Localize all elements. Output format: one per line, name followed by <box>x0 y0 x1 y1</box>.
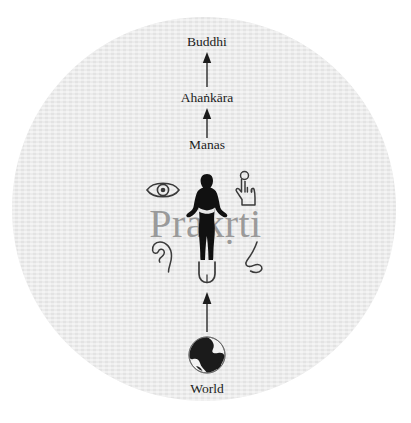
eye-icon <box>145 178 181 202</box>
arrow-manas-to-ahankara <box>200 108 214 138</box>
globe-icon <box>188 336 226 374</box>
ear-icon <box>150 240 176 274</box>
node-label-manas: Manas <box>189 138 225 152</box>
nose-icon <box>242 240 270 274</box>
diagram-canvas: Buddhi Ahaṅkāra Manas Prakṛti <box>0 0 411 423</box>
node-label-ahankara: Ahaṅkāra <box>181 91 233 105</box>
node-label-world: World <box>190 382 223 396</box>
arrow-world-to-senses <box>200 292 214 332</box>
tongue-icon <box>195 260 219 286</box>
hand-touch-icon <box>234 170 260 208</box>
human-silhouette-icon <box>185 174 229 260</box>
arrow-ahankara-to-buddhi <box>200 52 214 87</box>
node-label-buddhi: Buddhi <box>187 35 227 49</box>
